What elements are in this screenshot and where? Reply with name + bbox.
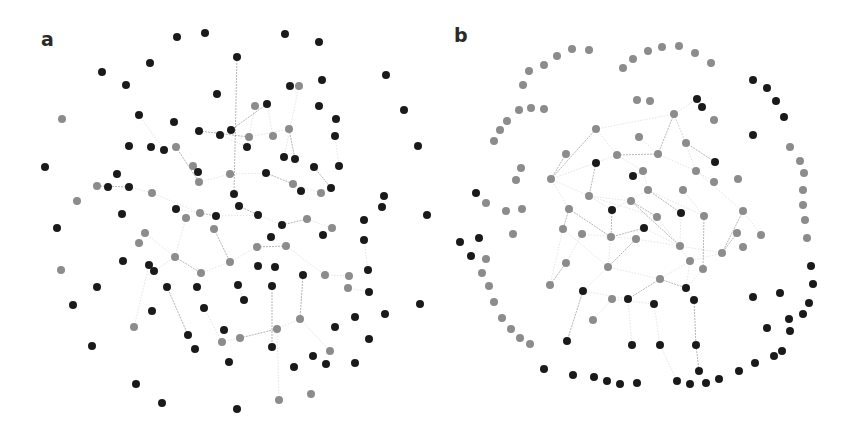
- network-b-gray-node: [562, 259, 570, 267]
- network-b-edge: [674, 114, 686, 143]
- network-b-edge: [583, 291, 628, 299]
- network-b-gray-node: [739, 243, 747, 251]
- network-a-edge: [240, 329, 277, 338]
- network-b-dark-node: [770, 352, 778, 360]
- network-a-gray-node: [197, 269, 205, 277]
- network-b-dark-node: [608, 206, 616, 214]
- network-b-edge: [583, 267, 608, 291]
- network-b-dark-node: [749, 131, 757, 139]
- network-b-dark-node: [799, 310, 807, 318]
- network-a-dark-node: [271, 263, 279, 271]
- network-b-dark-node: [592, 159, 600, 167]
- network-b-dark-node: [809, 280, 817, 288]
- network-a-edge: [267, 104, 273, 136]
- network-a-edge: [249, 129, 289, 137]
- network-a-dark-node: [98, 68, 106, 76]
- network-a-dark-node: [290, 363, 298, 371]
- network-a-edge: [216, 215, 258, 216]
- network-b-gray-node: [607, 233, 615, 241]
- network-b-gray-node: [498, 314, 506, 322]
- network-b-gray-node: [707, 59, 715, 67]
- network-a-dark-node: [254, 262, 262, 270]
- network-b-gray-node: [562, 150, 570, 158]
- network-b-dark-node: [682, 284, 690, 292]
- network-b-edge: [589, 196, 612, 210]
- network-b-edge: [551, 155, 617, 179]
- network-a-dark-node: [254, 211, 262, 219]
- network-a-gray-node: [195, 178, 203, 186]
- network-a-gray-node: [328, 224, 336, 232]
- network-a-gray-node: [73, 197, 81, 205]
- network-a-dark-node: [262, 169, 270, 177]
- network-a-nodes: [41, 29, 431, 413]
- network-a-gray-node: [289, 180, 297, 188]
- network-a-gray-node: [295, 82, 303, 90]
- network-b-edge: [658, 114, 674, 154]
- network-b-gray-node: [490, 137, 498, 145]
- network-b-gray-node: [518, 205, 526, 213]
- network-a-gray-node: [57, 266, 65, 274]
- network-b-gray-node: [656, 275, 664, 283]
- network-a-dark-node: [158, 399, 166, 407]
- network-a-gray-node: [245, 133, 253, 141]
- network-a-dark-node: [132, 380, 140, 388]
- network-b-gray-node: [627, 197, 635, 205]
- network-a-dark-node: [235, 202, 243, 210]
- network-b-gray-node: [553, 52, 561, 60]
- network-b-gray-node: [509, 230, 517, 238]
- network-b-gray-node: [633, 96, 641, 104]
- network-a-dark-node: [230, 190, 238, 198]
- network-b-dark-node: [629, 172, 637, 180]
- network-b-edge: [589, 196, 657, 217]
- network-b-gray-node: [516, 334, 524, 342]
- network-a-dark-node: [360, 216, 368, 224]
- network-b-gray-node: [632, 235, 640, 243]
- network-b-edge: [596, 114, 674, 129]
- network-a-gray-node: [135, 239, 143, 247]
- network-a-dark-node: [335, 162, 343, 170]
- network-a-edge: [175, 218, 186, 257]
- network-a-dark-node: [263, 100, 271, 108]
- network-a-edge: [335, 136, 339, 166]
- network-b-dark-node: [540, 365, 548, 373]
- network-b-dark-node: [673, 377, 681, 385]
- network-b-edge: [680, 213, 681, 246]
- network-a-dark-node: [423, 211, 431, 219]
- network-a-edge: [134, 265, 149, 327]
- network-a-dark-node: [227, 126, 235, 134]
- network-b-edge: [654, 304, 660, 345]
- network-b-gray-node: [676, 242, 684, 250]
- network-b-gray-node: [540, 105, 548, 113]
- network-b-dark-node: [763, 84, 771, 92]
- network-b-gray-node: [799, 186, 807, 194]
- network-a-edge: [266, 173, 293, 184]
- network-b-gray-node: [585, 192, 593, 200]
- network-a-dark-node: [414, 142, 422, 150]
- network-a-dark-node: [88, 342, 96, 350]
- network-a-dark-node: [281, 30, 289, 38]
- network-a-dark-node: [322, 360, 330, 368]
- network-b-edges: [550, 99, 761, 381]
- network-b-gray-node: [803, 234, 811, 242]
- network-b-gray-node: [496, 126, 504, 134]
- network-a-dark-node: [268, 343, 276, 351]
- network-a-gray-node: [58, 115, 66, 123]
- network-a-dark-node: [280, 153, 288, 161]
- network-b-gray-node: [639, 167, 647, 175]
- network-a-edge: [199, 174, 230, 182]
- network-b-edge: [596, 129, 617, 155]
- network-b-gray-node: [644, 47, 652, 55]
- network-b-dark-node: [692, 341, 700, 349]
- network-b-gray-node: [592, 125, 600, 133]
- network-b-edge: [631, 201, 657, 217]
- network-b-gray-node: [629, 55, 637, 63]
- network-a-dark-node: [172, 205, 180, 213]
- network-a-dark-node: [278, 221, 286, 229]
- network-a-edge: [145, 233, 175, 257]
- network-a-dark-node: [365, 335, 373, 343]
- network-a-gray-node: [141, 229, 149, 237]
- network-a-dark-node: [331, 132, 339, 140]
- network-b-gray-node: [734, 175, 742, 183]
- network-b-dark-node: [780, 113, 788, 121]
- network-b-gray-node: [515, 106, 523, 114]
